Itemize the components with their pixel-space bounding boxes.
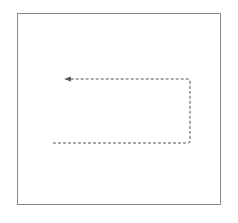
- arrowhead-icon: [64, 77, 71, 82]
- signal-path-arrow: [0, 0, 238, 223]
